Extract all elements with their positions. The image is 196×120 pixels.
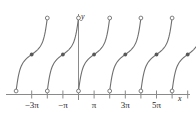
open-endpoint — [170, 89, 174, 93]
x-tick-label: −3π — [25, 100, 40, 110]
filled-point — [155, 53, 159, 57]
filled-point — [186, 53, 190, 57]
open-endpoint — [108, 16, 112, 20]
open-endpoint — [108, 89, 112, 93]
x-axis-label: x — [177, 94, 182, 103]
filled-midpoint-dots — [30, 53, 190, 57]
curve-branch — [172, 18, 196, 91]
x-tick-label: 5π — [152, 100, 162, 110]
graph-figure: π3π5π−3π−π x y — [0, 0, 196, 120]
y-axis-label: y — [80, 12, 85, 21]
open-endpoint — [139, 16, 143, 20]
open-endpoint-dots — [14, 16, 196, 93]
x-tick-label: π — [92, 100, 97, 110]
filled-point — [92, 53, 96, 57]
x-tick-label: −π — [58, 100, 68, 110]
open-endpoint — [170, 16, 174, 20]
filled-point — [30, 53, 34, 57]
open-endpoint — [45, 16, 49, 20]
open-endpoint — [77, 16, 81, 20]
open-endpoint — [77, 89, 81, 93]
filled-point — [61, 53, 65, 57]
x-tick-label: 3π — [121, 100, 131, 110]
filled-point — [123, 53, 127, 57]
function-graph-svg: π3π5π−3π−π x y — [0, 0, 196, 120]
curve-branches — [16, 18, 196, 91]
open-endpoint — [14, 89, 18, 93]
x-axis-tick-labels: π3π5π−3π−π — [25, 100, 162, 110]
open-endpoint — [139, 89, 143, 93]
open-endpoint — [45, 89, 49, 93]
